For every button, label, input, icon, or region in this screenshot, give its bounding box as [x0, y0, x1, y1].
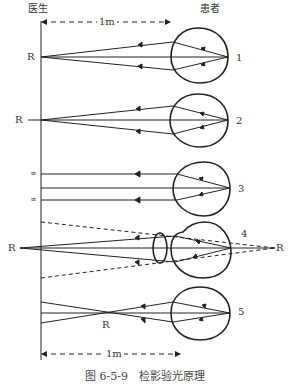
- row-2: [28, 94, 228, 147]
- row-5-point-r: R: [102, 320, 110, 330]
- distance-label-top: 1m: [97, 17, 117, 27]
- distance-label-bottom: 1m: [104, 349, 124, 359]
- row-1-number: 1: [236, 53, 242, 63]
- row-4-point-r-left: R: [8, 243, 16, 253]
- retinoscopy-diagram: [0, 0, 290, 386]
- row-2-point-r: R: [15, 115, 23, 125]
- row-3-infinity-bottom: ∞: [30, 196, 37, 204]
- row-5: [41, 287, 230, 340]
- row-1-point-r: R: [27, 52, 35, 62]
- row-3: [41, 162, 230, 216]
- figure-caption: 图 6-5-9 检影验光原理: [0, 367, 290, 383]
- patient-label: 患者: [200, 4, 220, 14]
- row-4-number: 4: [241, 229, 247, 239]
- row-4: [20, 222, 275, 278]
- row-4-point-r-right: R: [276, 243, 284, 253]
- doctor-label: 医生: [28, 4, 48, 14]
- row-3-number: 3: [238, 184, 244, 194]
- row-3-infinity-top: ∞: [30, 170, 37, 178]
- row-1: [41, 28, 228, 83]
- row-2-number: 2: [236, 116, 242, 126]
- row-5-number: 5: [238, 307, 244, 317]
